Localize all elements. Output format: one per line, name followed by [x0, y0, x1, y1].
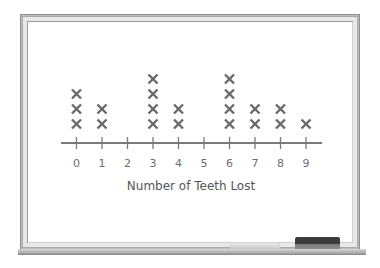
x-mark-icon: [225, 90, 234, 99]
x-mark-icon: [72, 90, 81, 99]
x-mark-icon: [149, 75, 158, 84]
x-mark-icon: [72, 105, 81, 114]
x-mark-icon: [225, 75, 234, 84]
x-mark-icon: [149, 90, 158, 99]
tick-label-2: 2: [124, 157, 131, 170]
tick-label-0: 0: [73, 157, 80, 170]
x-mark-icon: [225, 105, 234, 114]
x-axis-label: Number of Teeth Lost: [127, 179, 256, 193]
x-mark-icon: [276, 105, 285, 114]
x-mark-icon: [302, 120, 311, 129]
x-mark-icon: [72, 120, 81, 129]
tick-label-4: 4: [175, 157, 182, 170]
data-marks: [72, 75, 311, 129]
x-mark-icon: [251, 105, 260, 114]
tick-label-9: 9: [303, 157, 310, 170]
x-mark-icon: [225, 120, 234, 129]
x-mark-icon: [276, 120, 285, 129]
tick-labels: 0123456789: [73, 157, 310, 170]
line-plot: 0123456789 Number of Teeth Lost: [0, 0, 380, 268]
x-mark-icon: [98, 105, 107, 114]
x-mark-icon: [174, 120, 183, 129]
tick-label-5: 5: [201, 157, 208, 170]
tick-label-3: 3: [150, 157, 157, 170]
x-mark-icon: [149, 105, 158, 114]
tick-label-7: 7: [252, 157, 259, 170]
x-mark-icon: [174, 105, 183, 114]
tick-label-6: 6: [226, 157, 233, 170]
tick-label-8: 8: [277, 157, 284, 170]
x-mark-icon: [98, 120, 107, 129]
tick-label-1: 1: [99, 157, 106, 170]
x-mark-icon: [251, 120, 260, 129]
x-mark-icon: [149, 120, 158, 129]
